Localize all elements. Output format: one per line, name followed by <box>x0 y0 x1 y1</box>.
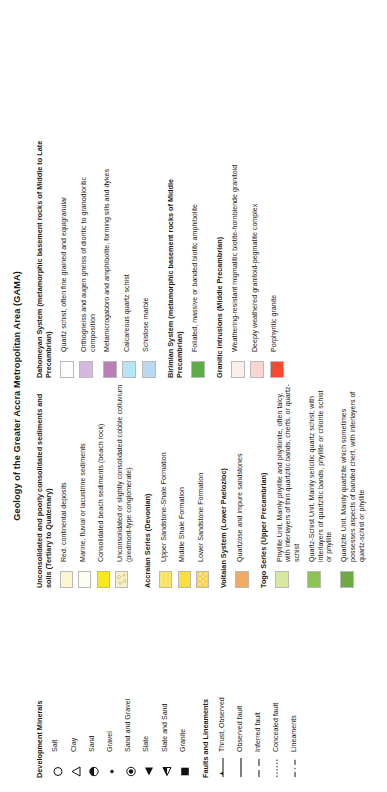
bullseye-circle-symbol <box>124 752 137 778</box>
legend-item-label: Quartz schist, often fine grained and eq… <box>60 197 69 352</box>
legend-item[interactable]: Metamicrogabbro and amphibolite, forming… <box>103 139 117 378</box>
open-circle-symbol <box>51 752 64 778</box>
thrust-line-symbol <box>217 752 228 778</box>
swatch-fill <box>122 361 136 378</box>
legend-item[interactable]: Slate <box>142 594 155 778</box>
legend-item-label: Upper Sandstone-Shale Formation <box>159 452 168 562</box>
swatch-fill <box>60 571 73 588</box>
legend-column-sediments: Unconsolidated and poorly consolidated s… <box>36 378 378 588</box>
swatch-fill <box>340 571 354 588</box>
legend-item-label: Slate and Sand <box>160 703 169 752</box>
legend-item[interactable]: Salt <box>51 594 64 778</box>
legend-item[interactable]: Gravel <box>105 594 118 778</box>
legend-item[interactable]: Sand <box>87 594 100 778</box>
group-title-granitic: Granitic intrusions (Middle Precambrian) <box>216 139 225 378</box>
dotted-line-symbol <box>271 752 282 778</box>
legend-item-label: Lower Sandstone Formation <box>196 473 205 562</box>
legend-item[interactable]: Thrust, Observed <box>217 594 229 778</box>
color-swatch-dotted <box>196 562 209 588</box>
legend-item-label: Gravel <box>105 731 114 752</box>
legend-item[interactable]: Quartzose and impure sandstones <box>235 384 249 588</box>
rotated-legend-wrapper: Geology of the Greater Accra Metropolita… <box>0 0 387 792</box>
swatch-fill <box>231 361 245 378</box>
swatch-fill <box>159 571 172 588</box>
group-title-accraian: Accraian Series (Devonian) <box>144 384 153 588</box>
development-minerals-rows: Salt Clay <box>51 594 191 778</box>
group-granitic-intrusions: Granitic intrusions (Middle Precambrian)… <box>216 139 284 378</box>
group-title-development-minerals: Development Minerals <box>36 594 45 778</box>
group-accraian-series: Accraian Series (Devonian) Upper Sandsto <box>144 384 209 588</box>
group-dahomeyan-system: Dahomeyan System (metamorphic basement r… <box>36 139 156 378</box>
group-title-dahomeyan: Dahomeyan System (metamorphic basement r… <box>36 139 54 378</box>
swatch-fill <box>191 361 205 378</box>
faults-rows: Thrust, Observed Observed fault <box>217 594 301 778</box>
legend-item[interactable]: Slate and Sand <box>160 594 173 778</box>
legend-item[interactable]: Marine, fluvial or lacustrine sediments <box>78 384 91 588</box>
legend-item[interactable]: Lineaments <box>289 594 301 778</box>
legend-item-label: Quartz-Schist Unit. Mainly sericitic qua… <box>307 384 334 562</box>
legend-item[interactable]: Unconsolidated or slightly consolidated … <box>115 384 133 588</box>
legend-item[interactable]: Phyllite Unit. Mainly phyllite and phyll… <box>275 384 302 588</box>
legend-item-label: Salt <box>51 740 60 752</box>
swatch-fill <box>79 361 93 378</box>
legend-columns: Development Minerals Salt Clay <box>36 14 378 778</box>
color-swatch-lined <box>159 562 172 588</box>
group-faults-and-lineaments: Faults and Lineaments Thrust, Observed <box>202 594 301 778</box>
color-swatch <box>270 352 284 378</box>
legend-item[interactable]: Foliated, massive or banded biotitc amph… <box>191 139 205 378</box>
legend-item-label: Quartzite Unit. Mainly quartzite which s… <box>340 384 367 562</box>
color-swatch <box>250 352 264 378</box>
half-filled-circle-symbol <box>87 752 100 778</box>
group-title-voltaian: Voltaian System (Lower Paelozioc) <box>220 384 229 588</box>
swatch-fill <box>142 361 156 378</box>
legend-item[interactable]: Calcareous quartz schist <box>122 139 136 378</box>
legend-item[interactable]: Concealed fault <box>271 594 283 778</box>
legend-item-label: Consolidated beach sediments (beach rock… <box>97 424 106 562</box>
legend-item[interactable]: Red, continental deposits <box>60 384 73 588</box>
group-title-quaternary: Unconsolidated and poorly consolidated s… <box>36 384 54 588</box>
open-triangle-symbol <box>69 752 82 778</box>
legend-item[interactable]: Inferred fault <box>253 594 265 778</box>
color-swatch <box>103 352 117 378</box>
granitic-rows: Weathering-resistant migmatitic biotite-… <box>231 139 284 378</box>
legend-item-label: Phyllite Unit. Mainly phyllite and phyll… <box>275 384 302 562</box>
legend-column-symbols: Development Minerals Salt Clay <box>36 588 312 778</box>
togo-rows: Phyllite Unit. Mainly phyllite and phyll… <box>275 384 367 588</box>
legend-item[interactable]: Deeply weathered granitoid-pegmatite com… <box>250 139 264 378</box>
half-filled-triangle-symbol <box>160 752 173 778</box>
legend-item[interactable]: Lower Sandstone Formation <box>196 384 209 588</box>
legend-item[interactable]: Quartzite Unit. Mainly quartzite which s… <box>340 384 367 588</box>
swatch-fill <box>115 571 128 588</box>
legend-item-label: Granite <box>178 729 187 752</box>
color-swatch <box>191 352 205 378</box>
legend-item-label: Calcareous quartz schist <box>122 274 131 352</box>
legend-item[interactable]: Clay <box>69 594 82 778</box>
filled-triangle-symbol <box>142 752 155 778</box>
color-swatch <box>60 562 73 588</box>
legend-item[interactable]: Schistose marble <box>142 139 156 378</box>
legend-item[interactable]: Observed fault <box>235 594 247 778</box>
legend-item[interactable]: Granite <box>178 594 191 778</box>
legend-item-label: Schistose marble <box>142 298 151 352</box>
swatch-fill <box>270 361 284 378</box>
legend-item[interactable]: Weathering-resistant migmatitic biotite-… <box>231 139 245 378</box>
swatch-fill <box>235 571 249 588</box>
legend-item[interactable]: Quartz schist, often fine grained and eq… <box>60 139 74 378</box>
swatch-fill <box>60 361 74 378</box>
solid-line-symbol <box>235 752 246 778</box>
legend-item[interactable]: Consolidated beach sediments (beach rock… <box>97 384 110 588</box>
legend-item[interactable]: Upper Sandstone-Shale Formation <box>159 384 172 588</box>
legend-item[interactable]: Porphyritic granite <box>270 139 284 378</box>
legend-item-label: Marine, fluvial or lacustrine sediments <box>78 443 87 562</box>
legend-item-label: Lineaments <box>289 715 298 752</box>
legend-item[interactable]: Sand and Gravel <box>124 594 137 778</box>
legend-item[interactable]: Quartz-Schist Unit. Mainly sericitic qua… <box>307 384 334 588</box>
legend-item-label: Slate <box>142 736 151 752</box>
quaternary-rows: Red, continental deposits Marine, fluvia… <box>60 384 134 588</box>
accraian-rows: Upper Sandstone-Shale Formation Middle S… <box>159 384 209 588</box>
legend-item-label: Weathering-resistant migmatitic biotite-… <box>231 165 240 352</box>
voltaian-rows: Quartzose and impure sandstones <box>235 384 249 588</box>
legend-item[interactable]: Middle Shale Formation <box>178 384 191 588</box>
legend-item-label: Deeply weathered granitoid-pegmatite com… <box>250 204 259 352</box>
legend-item[interactable]: Orthogneiss and augen gneiss of dioritic… <box>79 139 97 378</box>
